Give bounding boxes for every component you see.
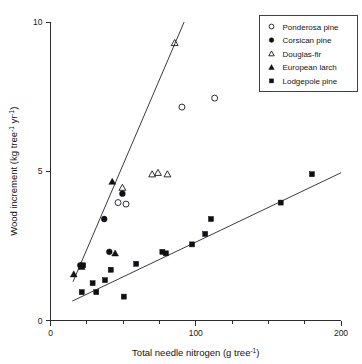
data-point bbox=[149, 171, 156, 177]
data-point bbox=[278, 200, 283, 205]
data-point bbox=[115, 200, 121, 206]
y-axis-title: Wood increment (kg tree-1 yr-1) bbox=[8, 107, 20, 236]
data-point bbox=[119, 191, 125, 197]
legend-label: Lodgepole pine bbox=[283, 77, 338, 86]
y-tick-label: 5 bbox=[38, 166, 43, 176]
data-point bbox=[81, 263, 86, 268]
legend-label: Douglas-fir bbox=[283, 50, 322, 59]
data-point bbox=[164, 171, 171, 177]
data-point bbox=[94, 290, 99, 295]
legend-label: European larch bbox=[283, 63, 337, 72]
series-lodgepole-pine bbox=[79, 172, 314, 299]
conifer-upper-regression bbox=[73, 22, 184, 282]
data-point bbox=[212, 95, 218, 101]
data-point bbox=[90, 281, 95, 286]
chart-legend: Ponderosa pineCorsican pineDouglas-firEu… bbox=[260, 16, 358, 92]
data-point bbox=[108, 267, 113, 272]
series-douglas-fir bbox=[119, 39, 178, 190]
data-point bbox=[179, 104, 185, 110]
data-point bbox=[101, 216, 107, 222]
legend-marker-filled-circle bbox=[269, 38, 274, 43]
chart-figure: 01002000510 Total needle nitrogen (g tre… bbox=[0, 0, 362, 364]
x-tick-label: 200 bbox=[334, 328, 348, 338]
data-point bbox=[163, 251, 168, 256]
data-point bbox=[121, 294, 126, 299]
y-tick-label: 0 bbox=[38, 316, 43, 326]
legend-label: Corsican pine bbox=[283, 36, 332, 45]
series-corsican-pine bbox=[77, 191, 125, 268]
data-point bbox=[112, 250, 119, 256]
x-tick-label: 100 bbox=[189, 328, 203, 338]
data-point bbox=[155, 169, 162, 175]
data-point bbox=[309, 172, 314, 177]
x-axis-title: Total needle nitrogen (g tree-1) bbox=[132, 347, 259, 359]
data-point bbox=[209, 217, 214, 222]
data-point bbox=[102, 278, 107, 283]
legend-marker-filled-square bbox=[270, 79, 274, 83]
data-point bbox=[134, 261, 139, 266]
data-point bbox=[106, 249, 112, 255]
legend-label: Ponderosa pine bbox=[283, 23, 340, 32]
data-point bbox=[203, 231, 208, 236]
data-point bbox=[119, 184, 126, 190]
scatter-plot: 01002000510 Total needle nitrogen (g tre… bbox=[0, 0, 362, 364]
data-point bbox=[79, 290, 84, 295]
lodgepole-lower-regression bbox=[72, 173, 341, 301]
y-tick-label: 10 bbox=[33, 17, 43, 27]
series-ponderosa-pine bbox=[115, 95, 218, 207]
x-tick-label: 0 bbox=[48, 328, 53, 338]
data-point bbox=[123, 201, 129, 207]
data-point bbox=[190, 242, 195, 247]
data-point bbox=[109, 178, 116, 184]
